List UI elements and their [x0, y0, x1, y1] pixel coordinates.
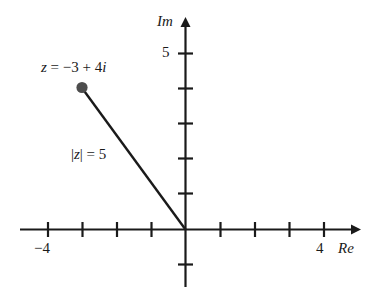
point-annotation-z: z = −3 + 4i [41, 60, 106, 75]
real-tick-label-neg4: −4 [34, 241, 50, 256]
argand-diagram-figure: Im 5 −4 4 Re z = −3 + 4i |z| = 5 [0, 0, 376, 293]
modulus-annotation-value: | = 5 [80, 146, 106, 162]
real-axis-label: Re [338, 241, 354, 256]
point-annotation-z-body: = −3 + 4 [47, 59, 102, 75]
real-tick-label-4: 4 [316, 241, 324, 256]
imaginary-axis-arrowhead [181, 17, 191, 27]
point-marker-z [76, 82, 87, 93]
point-annotation-z-imaginary-unit: i [102, 59, 106, 75]
real-axis-arrowhead [351, 225, 361, 235]
imaginary-axis-label: Im [157, 14, 173, 29]
modulus-annotation: |z| = 5 [71, 147, 106, 162]
imaginary-tick-label-5: 5 [162, 45, 170, 60]
